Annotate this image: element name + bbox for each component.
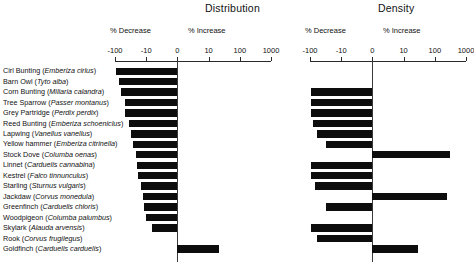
panel-title-density: Density [378,2,414,14]
species-common-name: Stock Dove ( [3,150,44,159]
species-latin-name: Emberiza schoeniclus [51,119,121,128]
axis-tick-mark [177,57,178,61]
bar [372,193,447,200]
axis-tick-label: 100 [429,46,442,55]
species-common-name: Barn Owl ( [3,77,37,86]
species-latin-name: Corvus frugilegus [24,234,80,243]
species-common-name: Cirl Bunting ( [3,66,45,75]
species-latin-name: Corvus monedula [35,192,91,201]
bar [138,172,177,179]
species-label: Skylark (Alauda arvensis) [3,223,85,232]
axis-tick-label: 1000 [263,46,280,55]
axis-tick-mark [146,57,147,61]
bar [146,214,177,221]
bar [119,78,177,85]
species-paren-close: ) [107,98,109,107]
axis-tick-label: -100 [302,46,317,55]
bar [129,120,177,127]
species-label: Tree Sparrow (Passer montanus) [3,98,109,107]
species-common-name: Jackdaw ( [3,192,35,201]
axis-tick-mark [435,57,436,61]
species-common-name: Kestrel ( [3,171,30,180]
bar [311,99,372,106]
species-paren-close: ) [95,150,97,159]
bar [144,203,178,210]
species-label: Jackdaw (Corvus monedula) [3,192,94,201]
axis-tick-label: 0 [370,46,374,55]
species-latin-name: Passer montanus [51,98,107,107]
axis-tick-mark [115,57,116,61]
species-paren-close: ) [90,129,92,138]
species-label: Corn Bunting (Miliaria calandra) [3,87,104,96]
bar [311,172,372,179]
species-latin-name: Falco tinnunculus [30,171,86,180]
species-paren-close: ) [86,171,88,180]
axis-tick-label: 100 [234,46,247,55]
bar [315,182,373,189]
species-label: Yellow hammer (Emberiza citrinella) [3,139,117,148]
species-label: Stock Dove (Columba oenas) [3,150,97,159]
axis-tick-mark [240,57,241,61]
axis-tick-mark [466,57,467,61]
species-paren-close: ) [99,244,101,253]
species-common-name: Starling ( [3,181,32,190]
species-common-name: Lapwing ( [3,129,34,138]
panel-title-distribution: Distribution [205,2,260,14]
species-paren-close: ) [96,108,98,117]
axis-tick-label: 10 [204,46,212,55]
species-latin-name: Emberiza citrinella [56,139,115,148]
species-latin-name: Columba oenas [44,150,94,159]
species-label: Goldfinch (Carduelis carduelis) [3,244,101,253]
bar [121,88,177,95]
species-label: Linnet (Carduelis cannabina) [3,160,95,169]
bar [136,151,178,158]
bar [372,245,417,252]
species-paren-close: ) [121,119,123,128]
species-common-name: Goldfinch ( [3,244,38,253]
species-label: Kestrel (Falco tinnunculus) [3,171,88,180]
bar [133,141,177,148]
species-latin-name: Sturnus vulgaris [32,181,84,190]
bar [125,109,177,116]
axis-tick-mark [341,57,342,61]
axis-tick-mark [310,57,311,61]
species-common-name: Skylark ( [3,223,31,232]
species-latin-name: Alauda arvensis [31,223,82,232]
bar [317,235,372,242]
species-latin-name: Carduelis carduelis [38,244,99,253]
species-paren-close: ) [66,77,68,86]
axis-tick-mark [209,57,210,61]
species-paren-close: ) [102,87,104,96]
species-label: Reed Bunting (Emberiza schoeniclus) [3,119,123,128]
species-paren-close: ) [80,234,82,243]
species-paren-close: ) [83,181,85,190]
bar [116,68,178,75]
species-common-name: Rook ( [3,234,24,243]
species-latin-name: Vanellus vanellus [34,129,90,138]
species-label: Greenfinch (Carduelis chloris) [3,202,98,211]
axis-tick-label: 1000 [458,46,474,55]
species-paren-close: ) [82,223,84,232]
species-label: Grey Partridge (Perdix perdix) [3,108,99,117]
bar [125,99,177,106]
bar [137,162,178,169]
bar [313,120,372,127]
density-axis-line [310,61,466,62]
bar [311,88,372,95]
species-latin-name: Columba palumbus [48,213,110,222]
axis-tick-label: -10 [141,46,152,55]
axis-tick-mark [271,57,272,61]
species-common-name: Grey Partridge ( [3,108,54,117]
distribution-increase-label: % Increase [188,26,226,35]
species-latin-name: Perdix perdix [54,108,96,117]
axis-tick-label: -100 [107,46,122,55]
species-label: Cirl Bunting (Emberiza cirlus) [3,66,96,75]
species-latin-name: Emberiza cirlus [45,66,94,75]
species-common-name: Tree Sparrow ( [3,98,51,107]
bar [143,193,178,200]
bar [372,151,449,158]
axis-tick-label: -10 [336,46,347,55]
species-paren-close: ) [115,139,117,148]
species-paren-close: ) [110,213,112,222]
